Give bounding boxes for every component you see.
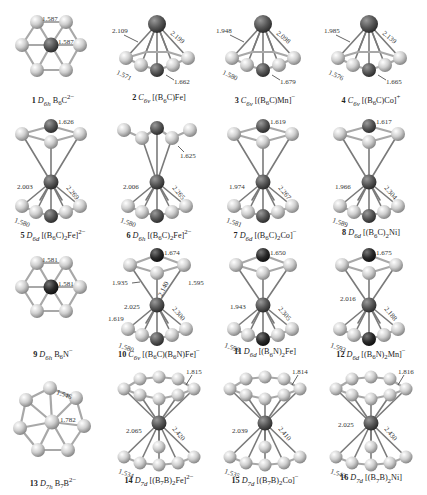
caption-6: 6 D6h [(B6C)2Fe]2−: [106, 228, 212, 241]
bond-length-label: 1.581: [58, 280, 74, 288]
bond-length-label: 1.782: [60, 416, 76, 424]
bond-length-label: 1.985: [324, 27, 340, 35]
bond-length-label: 2.410: [276, 425, 293, 443]
caption-2: 2 C6v [(B6C)Fe]: [106, 93, 212, 104]
bond-length-label: 2.199: [169, 29, 187, 46]
bond-length-label: 1.619: [270, 118, 286, 126]
structure-3-b6c-mn: 1.948 2.098 1.580 1.679 3 C6v [(B6C)Mn]−: [212, 0, 318, 123]
sandwich-molecule: 1.650 1.943 2.305 1.596: [212, 245, 318, 355]
bond-length-label: 2.109: [112, 27, 128, 35]
bond-length-label: 2.304: [382, 184, 399, 202]
caption-5: 5 D6d [(B6C)2Fe]2−: [0, 228, 106, 241]
sandwich-molecule: 1.675 2.016 2.188 1.593: [318, 245, 424, 355]
caption-16: 16 D7d [(B7B)2Ni]: [318, 473, 424, 484]
bond-length-label: 2.420: [170, 425, 187, 443]
bond-length-label: 2.267: [276, 184, 293, 202]
bond-length-label: 1.650: [270, 249, 286, 257]
bond-length-label: 2.139: [381, 29, 399, 46]
bond-length-label: 1.943: [230, 303, 246, 311]
bond-length-label: 1.816: [398, 368, 414, 376]
sandwich-molecule: 1.626 2.003 2.269 1.580: [0, 108, 106, 228]
bond-length-label: 2.300: [170, 305, 187, 323]
caption-3: 3 C6v [(B6C)Mn]−: [212, 93, 318, 106]
sandwich-molecule: 1.619 1.974 2.267 1.581: [212, 108, 318, 228]
caption-11: 11 D6d [(B6N)2Fe]: [212, 347, 318, 358]
structure-12-b6n2-mn: 1.675 2.016 2.188 1.593 12 D6d [(B6N)2Mn…: [318, 245, 424, 368]
bond-length-label: 1.675: [376, 249, 392, 257]
structure-1-b6c: 1.587 1.587 1 D6h B6C2−: [0, 0, 106, 123]
half-sandwich-molecule: 1.985 2.139 1.576 1.665: [318, 0, 424, 108]
bond-length-label: 1.814: [292, 368, 308, 376]
bond-length-label: 1.581: [42, 256, 58, 264]
bond-length-label: 2.003: [17, 183, 33, 191]
bond-length-label: 1.679: [280, 78, 296, 86]
bond-length-label: 1.576: [327, 69, 345, 83]
bond-length-label: 1.617: [376, 118, 392, 126]
bond-length-label: 1.546: [55, 388, 73, 401]
caption-7: 7 D6d [(B6C)2Co]−: [212, 228, 318, 241]
bond-length-label: 1.665: [386, 78, 402, 86]
planar-heptagon-molecule: 1.546 1.782: [0, 370, 106, 478]
bond-length-label: 1.974: [229, 183, 245, 191]
structure-4-b6c-co: 1.985 2.139 1.576 1.665 4 C6v [(B6C)Co]+: [318, 0, 424, 123]
bond-length-label: 2.430: [382, 425, 399, 443]
bond-length-label: 1.587: [58, 38, 74, 46]
bond-length-label: 2.025: [124, 303, 140, 311]
caption-8: 8 D6d [(B6C)2Ni]: [318, 228, 424, 239]
sandwich-molecule: 1.625 2.006 2.265 1.580: [106, 108, 212, 228]
bond-length-label: 2.025: [338, 421, 354, 429]
bond-length-label: 2.265: [170, 184, 187, 202]
bond-length-label: 1.625: [180, 152, 196, 160]
bond-length-label: 2.065: [126, 427, 142, 435]
planar-hexagon-molecule: 1.587 1.587: [0, 0, 106, 108]
sandwich-molecule: 1.617 1.966 2.304 1.589: [318, 108, 424, 228]
bond-length-label: 1.674: [164, 249, 180, 257]
caption-13: 13 D7h B7B2−: [0, 476, 106, 489]
planar-hexagon-molecule: 1.581 1.581: [0, 247, 106, 355]
structure-16-b7b2-ni: 1.816 2.025 2.430 1.543 16 D7d [(B7B)2Ni…: [318, 365, 424, 488]
structure-14-b7b2-fe: 1.815 2.065 2.420 1.534 14 D7d [(B7B)2Fe…: [106, 365, 212, 488]
structure-10-b6c-b6n-fe: 1.674 1.935 2.140 1.595 2.025 2.300 1.61…: [106, 245, 212, 368]
bond-length-label: 1.595: [188, 279, 204, 287]
structure-15-b7b2-co: 1.814 2.039 2.410 1.535 15 D7d [(B7B)2Co…: [212, 365, 318, 488]
bond-length-label: 1.587: [42, 15, 58, 23]
bond-length-label: 1.948: [216, 27, 232, 35]
caption-1: 1 D6h B6C2−: [0, 93, 106, 106]
structure-9-b6n: 1.581 1.581 9 D6h B6N−: [0, 247, 106, 370]
bond-length-label: 2.188: [382, 305, 399, 323]
caption-15: 15 D7d [(B7B)2Co]−: [212, 473, 318, 486]
structure-2-b6c-fe: 2.109 2.199 1.571 1.662 2 C6v [(B6C)Fe]: [106, 0, 212, 123]
bond-length-label: 2.269: [64, 184, 81, 202]
bond-length-label: 2.039: [232, 427, 248, 435]
structure-7-b6c2-co: 1.619 1.974 2.267 1.581 7 D6d [(B6C)2Co]…: [212, 108, 318, 231]
bond-length-label: 1.580: [221, 69, 239, 83]
caption-9: 9 D6h B6N−: [0, 347, 106, 360]
bond-length-label: 1.935: [112, 279, 128, 287]
bond-length-label: 1.662: [174, 78, 190, 86]
sandwich-molecule: 1.815 2.065 2.420 1.534: [106, 365, 212, 475]
caption-12: 12 D6d [(B6N)2Mn]−: [318, 347, 424, 360]
caption-10: 10 C6v [(B6C)(B6N)Fe]−: [106, 347, 212, 360]
bond-length-label: 2.305: [276, 305, 293, 323]
bond-length-label: 2.006: [123, 183, 139, 191]
bond-length-label: 1.626: [58, 118, 74, 126]
structure-13-b7b: 1.546 1.782 13 D7h B7B2−: [0, 370, 106, 493]
sandwich-molecule: 1.814 2.039 2.410 1.535: [212, 365, 318, 475]
half-sandwich-molecule: 1.948 2.098 1.580 1.679: [212, 0, 318, 108]
bond-length-label: 1.966: [335, 183, 351, 191]
structure-5-b6c2-fe: 1.626 2.003 2.269 1.580 5 D6d [(B6C)2Fe]…: [0, 108, 106, 231]
bond-length-label: 1.815: [186, 368, 202, 376]
bond-length-label: 1.571: [115, 69, 133, 83]
sandwich-molecule: 1.674 1.935 2.140 1.595 2.025 2.300 1.61…: [106, 245, 212, 355]
bond-length-label: 2.016: [340, 295, 356, 303]
structure-8-b6c2-ni: 1.617 1.966 2.304 1.589 8 D6d [(B6C)2Ni]: [318, 108, 424, 231]
caption-14: 14 D7d [(B7B)2Fe]2−: [106, 473, 212, 486]
half-sandwich-molecule: 2.109 2.199 1.571 1.662: [106, 0, 212, 108]
bond-length-label: 1.619: [108, 315, 124, 323]
bond-length-label: 2.098: [275, 29, 293, 46]
caption-4: 4 C6v [(B6C)Co]+: [318, 93, 424, 106]
structure-11-b6n2-fe: 1.650 1.943 2.305 1.596 11 D6d [(B6N)2Fe…: [212, 245, 318, 368]
structure-6-b6c2-fe: 1.625 2.006 2.265 1.580 6 D6h [(B6C)2Fe]…: [106, 108, 212, 231]
sandwich-molecule: 1.816 2.025 2.430 1.543: [318, 365, 424, 475]
